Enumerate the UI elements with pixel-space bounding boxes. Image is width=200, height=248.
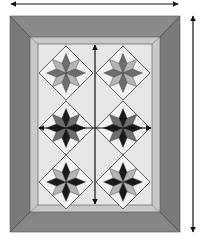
quilt-diagram (0, 0, 200, 248)
